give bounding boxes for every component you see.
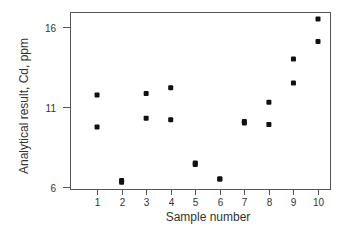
y-tick-label: 6 (50, 183, 56, 194)
x-tick-label: 6 (218, 197, 224, 208)
data-point-marker (168, 117, 173, 122)
x-tick-label: 1 (95, 197, 101, 208)
data-point-marker (95, 125, 100, 130)
y-tick-label: 16 (45, 23, 57, 34)
data-point-marker (144, 116, 149, 121)
data-points (95, 17, 321, 185)
data-point-marker (266, 100, 271, 105)
data-point-marker (291, 81, 296, 86)
x-tick-label: 4 (169, 197, 175, 208)
x-axis: 12345678910 (95, 190, 325, 208)
data-point-marker (316, 17, 321, 22)
x-tick-label: 3 (144, 197, 150, 208)
x-tick-label: 10 (313, 197, 325, 208)
data-point-marker (193, 162, 198, 167)
data-point-marker (242, 121, 247, 126)
plot-frame (71, 13, 331, 190)
x-tick-label: 9 (291, 197, 297, 208)
y-axis-title: Analytical result, Cd, ppm (17, 38, 31, 174)
x-tick-label: 7 (242, 197, 248, 208)
x-axis-title: Sample number (166, 210, 251, 224)
x-tick-label: 8 (267, 197, 273, 208)
data-point-marker (119, 180, 124, 185)
scatter-chart: 61116 12345678910 Sample number Analytic… (0, 0, 349, 235)
data-point-marker (217, 177, 222, 182)
data-point-marker (266, 122, 271, 127)
data-point-marker (291, 57, 296, 62)
x-tick-label: 2 (120, 197, 126, 208)
data-point-marker (95, 93, 100, 98)
y-tick-label: 11 (46, 103, 57, 114)
data-point-marker (168, 85, 173, 90)
data-point-marker (316, 39, 321, 44)
y-axis: 61116 (45, 23, 70, 194)
x-tick-label: 5 (193, 197, 199, 208)
data-point-marker (144, 91, 149, 96)
